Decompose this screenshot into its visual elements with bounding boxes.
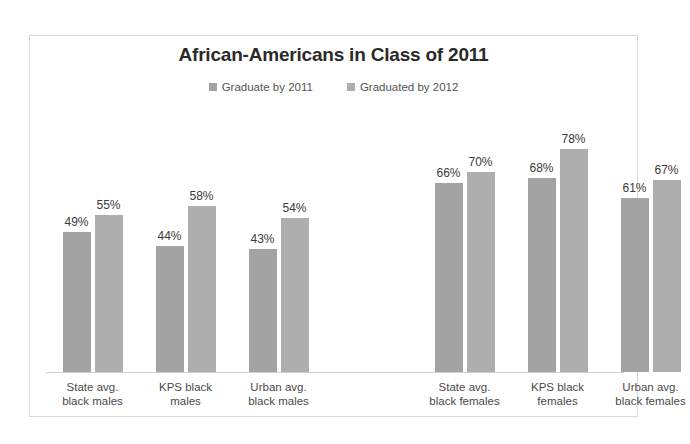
x-axis-labels: State avg. black males KPS black males U… <box>46 380 624 408</box>
bar-series-1[interactable] <box>249 249 277 372</box>
bar-series-2[interactable] <box>188 206 216 372</box>
bar-wrap-3-1: 70% <box>467 36 495 372</box>
bar-wrap-5-0: 61% <box>621 36 649 372</box>
x-axis-label-line: State avg. <box>46 380 139 394</box>
x-axis-label-1: KPS black males <box>139 380 232 408</box>
bar-value-label: 70% <box>468 155 492 169</box>
bar-value-label: 58% <box>189 189 213 203</box>
bar-value-label: 78% <box>561 132 585 146</box>
bar-wrap-0-1: 55% <box>95 36 123 372</box>
bar-group-0: 49% 55% <box>46 36 139 372</box>
bar-series-2[interactable] <box>653 180 681 372</box>
bar-series-1[interactable] <box>621 198 649 372</box>
bar-wrap-4-0: 68% <box>528 36 556 372</box>
x-axis-label-3: State avg. black females <box>418 380 511 408</box>
x-axis-label-line: black females <box>604 394 690 408</box>
bar-wrap-1-1: 58% <box>188 36 216 372</box>
bar-group-empty <box>325 36 418 372</box>
x-axis-label-line: black females <box>418 394 511 408</box>
x-axis-label-line: females <box>511 394 604 408</box>
bar-value-label: 67% <box>654 163 678 177</box>
x-axis-label-line: males <box>139 394 232 408</box>
bar-value-label: 44% <box>157 229 181 243</box>
x-axis-label-line: black males <box>46 394 139 408</box>
x-axis-label-line: KPS black <box>139 380 232 394</box>
bar-wrap-4-1: 78% <box>560 36 588 372</box>
bar-group-4: 68% 78% <box>511 36 604 372</box>
bar-value-label: 43% <box>250 232 274 246</box>
plot-area: 49% 55% 44% 58% <box>46 36 624 416</box>
x-axis-label-empty <box>325 380 418 408</box>
bar-wrap-3-0: 66% <box>435 36 463 372</box>
bar-value-label: 54% <box>282 201 306 215</box>
bar-wrap-2-1: 54% <box>281 36 309 372</box>
chart-container: African-Americans in Class of 2011 Gradu… <box>29 35 638 417</box>
bar-series-1[interactable] <box>528 178 556 372</box>
x-axis-label-line: KPS black <box>511 380 604 394</box>
bar-series-2[interactable] <box>95 215 123 372</box>
x-axis-line <box>46 372 624 373</box>
x-axis-label-line: State avg. <box>418 380 511 394</box>
bar-group-1: 44% 58% <box>139 36 232 372</box>
bar-wrap-0-0: 49% <box>63 36 91 372</box>
bar-series-1[interactable] <box>156 246 184 372</box>
bar-value-label: 55% <box>96 198 120 212</box>
bar-series-2[interactable] <box>560 149 588 372</box>
x-axis-label-line: black males <box>232 394 325 408</box>
bar-value-label: 66% <box>436 166 460 180</box>
bar-group-3: 66% 70% <box>418 36 511 372</box>
bar-group-5: 61% 67% <box>604 36 690 372</box>
x-axis-label-5: Urban avg. black females <box>604 380 690 408</box>
bar-group-2: 43% 54% <box>232 36 325 372</box>
bar-wrap-5-1: 67% <box>653 36 681 372</box>
bar-series-2[interactable] <box>281 218 309 372</box>
bar-wrap-1-0: 44% <box>156 36 184 372</box>
x-axis-label-line: Urban avg. <box>604 380 690 394</box>
bar-value-label: 49% <box>64 215 88 229</box>
bar-value-label: 68% <box>529 161 553 175</box>
bar-series-1[interactable] <box>435 183 463 372</box>
x-axis-label-4: KPS black females <box>511 380 604 408</box>
x-axis-label-line: Urban avg. <box>232 380 325 394</box>
bar-wrap-2-0: 43% <box>249 36 277 372</box>
x-axis-label-2: Urban avg. black males <box>232 380 325 408</box>
bar-groups: 49% 55% 44% 58% <box>46 36 624 372</box>
bar-value-label: 61% <box>622 181 646 195</box>
x-axis-label-0: State avg. black males <box>46 380 139 408</box>
bar-series-2[interactable] <box>467 172 495 372</box>
bar-series-1[interactable] <box>63 232 91 372</box>
